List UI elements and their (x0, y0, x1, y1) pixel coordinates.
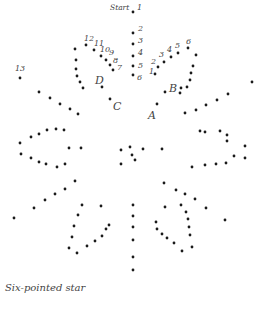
dot (205, 207, 208, 210)
dot (56, 166, 59, 169)
dot (100, 205, 103, 208)
dot (63, 129, 66, 132)
dot (189, 79, 192, 82)
dot-number-label: 2 (137, 24, 143, 33)
dot (204, 131, 207, 134)
dot (54, 193, 57, 196)
dot (251, 81, 254, 84)
dot-number-label: 4 (137, 48, 143, 57)
dot (156, 228, 159, 231)
dot (79, 81, 82, 84)
dot (175, 189, 178, 192)
dot (184, 112, 187, 115)
dot (75, 68, 78, 71)
dot (132, 215, 135, 218)
dot (181, 250, 184, 253)
dot (30, 157, 33, 160)
dot (244, 157, 247, 160)
dot (191, 166, 194, 169)
dot (71, 236, 74, 239)
puzzle-caption: Six-pointed star (5, 282, 85, 293)
dot (195, 109, 198, 112)
numbered-dot (132, 43, 135, 46)
numbered-dot (85, 44, 88, 47)
numbered-dot (93, 49, 96, 52)
dot (33, 207, 36, 210)
dot (199, 130, 202, 133)
dot (74, 180, 77, 183)
dot (81, 204, 84, 207)
dot (20, 153, 23, 156)
dot-number-label: 6 (186, 37, 191, 46)
dot-letter-label: D (94, 74, 104, 87)
dot (132, 256, 135, 259)
dot (68, 247, 71, 250)
dot (132, 204, 135, 207)
dot (13, 217, 16, 220)
dot-to-dot-puzzle: Start 12345612345678910111213 ABCD (0, 0, 270, 315)
dot (190, 72, 193, 75)
dot (105, 228, 108, 231)
dot (108, 224, 111, 227)
dot (184, 193, 187, 196)
dot (38, 91, 41, 94)
lettered-dot (164, 91, 167, 94)
dot (38, 161, 41, 164)
numbered-dot (19, 77, 22, 80)
dot-number-label: 6 (137, 73, 142, 82)
dot (142, 148, 145, 151)
dot-number-label: 12 (84, 34, 94, 43)
dot (76, 75, 79, 78)
dot (80, 147, 83, 150)
dot (192, 65, 195, 68)
lettered-dot (156, 103, 159, 106)
dot (164, 206, 167, 209)
numbered-dot (132, 74, 135, 77)
numbered-dot (177, 52, 180, 55)
dot (120, 163, 123, 166)
dot (180, 204, 183, 207)
dot (179, 92, 182, 95)
numbered-dot (105, 59, 108, 62)
dot (120, 149, 123, 152)
dot (215, 163, 218, 166)
dot (77, 214, 80, 217)
plain-dots (13, 48, 254, 272)
dot (75, 59, 78, 62)
dot-number-label: 2 (150, 57, 156, 66)
numbered-dot (100, 55, 103, 58)
dot (131, 154, 134, 157)
dot (224, 219, 227, 222)
numbered-dot (109, 64, 112, 67)
dot (163, 182, 166, 185)
dot-letter-label: C (113, 100, 122, 113)
dot (187, 218, 190, 221)
start-label: Start (110, 3, 130, 12)
numbered-dot (170, 56, 173, 59)
dot-number-label: 4 (166, 45, 172, 54)
dot (30, 136, 33, 139)
numbered-dot (163, 61, 166, 64)
dot (64, 163, 67, 166)
dot-number-label: 11 (94, 39, 104, 48)
dot-number-label: 5 (138, 61, 143, 70)
dot (219, 130, 222, 133)
dot (68, 147, 71, 150)
dot (76, 252, 79, 255)
dot (55, 128, 58, 131)
dot (191, 246, 194, 249)
numbered-dot (132, 65, 135, 68)
dot (49, 97, 52, 100)
dot (216, 99, 219, 102)
dot (46, 129, 49, 132)
dot (188, 226, 191, 229)
dot (195, 54, 198, 57)
dot (173, 242, 176, 245)
dot-number-label: 1 (137, 3, 142, 12)
dot-letter-label: B (168, 82, 177, 95)
dot-number-label: 5 (175, 41, 180, 50)
dot (94, 240, 97, 243)
dot (134, 159, 137, 162)
lettered-points: ABCD (94, 74, 177, 122)
dot (101, 235, 104, 238)
